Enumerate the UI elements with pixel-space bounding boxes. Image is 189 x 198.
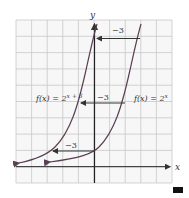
shift-label-bottom: −3 [65,141,77,150]
shift-label-middle: −3 [97,93,109,102]
shift-label-top: −3 [112,26,124,35]
exponential-shift-graph: x y −3 −3 −3 f(x) = 2x + 3 f(x) = 2x [0,0,189,198]
y-axis-label: y [89,10,96,20]
end-of-section-mark [173,187,183,193]
label-f1: f(x) = 2x [133,92,169,103]
x-axis-label: x [175,162,180,172]
